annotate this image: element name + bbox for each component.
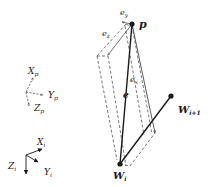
label-z-i: Zi [7, 161, 16, 172]
point-w-i [117, 161, 122, 166]
error-decomposition-diagram: p Wi Wi+1 e ex ez ey Xp Yp Zp Xi Yi Zi [0, 0, 219, 187]
label-e-y: ey [120, 8, 129, 19]
point-p [129, 21, 134, 26]
frame-p: Xp Yp Zp [26, 66, 58, 115]
label-x-i: Xi [36, 137, 45, 148]
label-e-x: ex [130, 75, 139, 85]
label-z-p: Zp [33, 103, 44, 115]
frame-i: Xi Yi Zi [7, 137, 52, 178]
label-e-z: ez [102, 29, 110, 39]
label-w-i1: Wi+1 [178, 104, 201, 116]
label-y-i: Yi [44, 167, 52, 178]
label-x-p: Xp [27, 66, 38, 78]
path-segment [120, 96, 171, 164]
label-y-p: Yp [48, 90, 58, 102]
label-w-i: Wi [113, 170, 127, 182]
label-e: e [123, 90, 129, 100]
label-p: p [139, 18, 147, 31]
point-w-i1 [168, 93, 173, 98]
